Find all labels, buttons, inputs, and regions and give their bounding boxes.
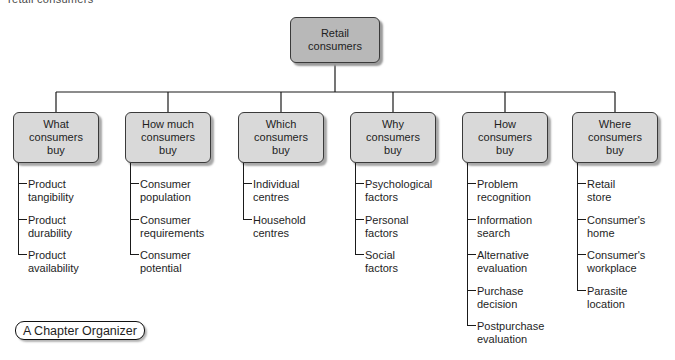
item-label: Product availability [28,249,113,275]
tick-mark [577,290,586,291]
node-box: Why consumers buy [350,112,436,163]
list-item: Consumer population [125,178,225,204]
item-label: Consumer requirements [140,214,225,240]
tick-mark [355,183,364,184]
item-label: Product durability [28,214,113,240]
diagram-canvas: retail consumers Retail consumers What c… [0,0,675,360]
item-label: Consumer potential [140,249,225,275]
item-label: Purchase decision [477,285,562,311]
item-label: Product tangibility [28,178,113,204]
tick-mark [577,254,586,255]
list-item: Consumer requirements [125,214,225,240]
branch-line [355,163,356,255]
item-label: Information search [477,214,562,240]
item-label: Alternative evaluation [477,249,562,275]
list-item: Postpurchase evaluation [462,320,562,346]
list-item: Consumer's home [572,214,672,240]
page-caption: retail consumers [8,0,94,5]
item-label: Psychological factors [365,178,450,204]
node-box: How consumers buy [462,112,548,163]
node-box: Which consumers buy [238,112,324,163]
tick-mark [467,325,476,326]
list-item: Problem recognition [462,178,562,204]
list-item: Personal factors [350,214,450,240]
tick-mark [243,219,252,220]
list-item: Parasite location [572,285,672,311]
tick-mark [577,183,586,184]
tick-mark [130,183,139,184]
chapter-organizer-badge: A Chapter Organizer [15,321,145,340]
tick-mark [130,254,139,255]
tick-mark [467,254,476,255]
list-item: Consumer's workplace [572,249,672,275]
list-item: Psychological factors [350,178,450,204]
list-item: Product tangibility [13,178,113,204]
item-label: Parasite location [587,285,672,311]
tick-mark [18,183,27,184]
tick-mark [355,254,364,255]
item-label: Household centres [253,214,338,240]
list-item: Consumer potential [125,249,225,275]
node-box: What consumers buy [13,112,99,163]
tick-mark [18,219,27,220]
tick-mark [467,183,476,184]
list-item: Purchase decision [462,285,562,311]
list-item: Social factors [350,249,450,275]
item-label: Individual centres [253,178,338,204]
tick-mark [577,219,586,220]
list-item: Information search [462,214,562,240]
item-label: Social factors [365,249,450,275]
tick-mark [467,290,476,291]
item-label: Consumer's home [587,214,672,240]
item-label: Consumer's workplace [587,249,672,275]
tick-mark [355,219,364,220]
branch-line [130,163,131,255]
list-item: Product availability [13,249,113,275]
list-item: Household centres [238,214,338,240]
list-item: Alternative evaluation [462,249,562,275]
item-label: Problem recognition [477,178,562,204]
node-box: Where consumers buy [572,112,658,163]
node-retail-consumers: Retail consumers [290,17,380,63]
list-item: Product durability [13,214,113,240]
list-item: Retail store [572,178,672,204]
item-label: Consumer population [140,178,225,204]
item-label: Postpurchase evaluation [477,320,562,346]
tick-mark [467,219,476,220]
list-item: Individual centres [238,178,338,204]
tick-mark [18,254,27,255]
tick-mark [243,183,252,184]
branch-line [18,163,19,255]
item-label: Personal factors [365,214,450,240]
tick-mark [130,219,139,220]
node-box: How much consumers buy [125,112,211,163]
item-label: Retail store [587,178,672,204]
